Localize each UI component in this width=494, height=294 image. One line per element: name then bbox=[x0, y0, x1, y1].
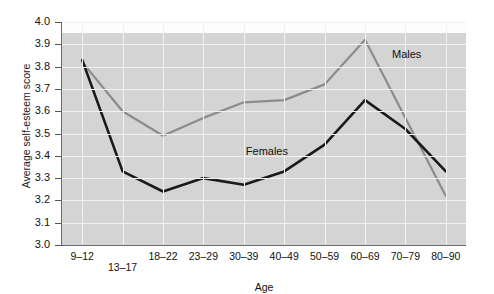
y-axis-tick-label: 3.5 bbox=[20, 128, 50, 139]
y-axis-tick-label: 3.2 bbox=[20, 194, 50, 205]
x-axis-tick-label: 13–17 bbox=[93, 262, 153, 273]
x-axis-title: Age bbox=[224, 281, 304, 293]
y-axis-tick-label: 3.8 bbox=[20, 61, 50, 72]
y-axis-tick-label: 3.4 bbox=[20, 150, 50, 161]
vertical-gridline bbox=[365, 22, 366, 245]
chart-figure: Average self-esteem score 4.03.93.83.73.… bbox=[0, 0, 494, 294]
vertical-gridline bbox=[123, 22, 124, 245]
y-axis-tick-label: 3.7 bbox=[20, 83, 50, 94]
y-axis-tick-label: 4.0 bbox=[20, 16, 50, 27]
x-axis-tick-label: 80–90 bbox=[416, 251, 476, 262]
vertical-gridline bbox=[203, 22, 204, 245]
series-label-females: Females bbox=[246, 145, 288, 157]
y-axis-tick-label: 3.3 bbox=[20, 172, 50, 183]
series-label-males: Males bbox=[392, 48, 421, 60]
y-axis-tick-label: 3.0 bbox=[20, 239, 50, 250]
vertical-gridline bbox=[82, 22, 83, 245]
y-axis-tick-label: 3.9 bbox=[20, 38, 50, 49]
y-axis-line bbox=[61, 22, 62, 246]
vertical-gridline bbox=[163, 22, 164, 245]
y-axis-tick-label: 3.1 bbox=[20, 217, 50, 228]
x-axis-line bbox=[62, 245, 466, 246]
vertical-gridline bbox=[446, 22, 447, 245]
vertical-gridline bbox=[284, 22, 285, 245]
y-axis-tick-label: 3.6 bbox=[20, 105, 50, 116]
line-series-females bbox=[82, 60, 446, 192]
y-axis-tick-labels: 4.03.93.83.73.63.53.43.33.23.13.0 bbox=[16, 0, 50, 294]
x-axis-tick-label: 9–12 bbox=[52, 251, 112, 262]
vertical-gridline bbox=[325, 22, 326, 245]
vertical-gridline bbox=[244, 22, 245, 245]
